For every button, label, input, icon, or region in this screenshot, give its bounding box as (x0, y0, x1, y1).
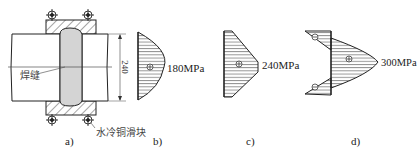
panel-c-stress-240 (224, 31, 258, 97)
copper-block-label: 水冷铜滑块 (96, 124, 146, 139)
stress-label-d: 300MPa (381, 57, 417, 68)
diagram-canvas (0, 0, 419, 153)
panel-label-a: a) (65, 135, 74, 147)
panel-label-b: b) (153, 135, 162, 147)
stress-label-c: 240MPa (262, 59, 299, 71)
weld-label: 焊缝 (20, 67, 40, 82)
panel-d-stress-300 (305, 31, 378, 95)
stress-label-b: 180MPa (167, 62, 204, 74)
panel-label-d: d) (351, 135, 360, 147)
right-plate (82, 34, 108, 101)
panel-b-stress-180 (138, 32, 165, 100)
panel-label-c: c) (246, 135, 255, 147)
dimension-label: 240 (120, 60, 130, 74)
